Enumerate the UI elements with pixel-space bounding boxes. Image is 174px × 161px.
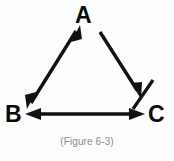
- edge-b-c-arrowhead-b: [25, 108, 41, 120]
- node-label-a: A: [75, 4, 92, 27]
- edge-b-c-arrowhead-c: [129, 108, 145, 120]
- edge-a-b: [25, 25, 82, 109]
- node-label-b: B: [5, 103, 22, 126]
- edge-a-c: [100, 32, 142, 99]
- edge-a-b-shaft: [31, 31, 76, 103]
- node-label-c: C: [148, 103, 165, 126]
- edge-a-c-shaft: [100, 32, 137, 90]
- figure-caption: (Figure 6-3): [0, 136, 174, 147]
- edge-b-c: [25, 108, 145, 120]
- figure-container: A B C (Figure 6-3): [0, 0, 174, 161]
